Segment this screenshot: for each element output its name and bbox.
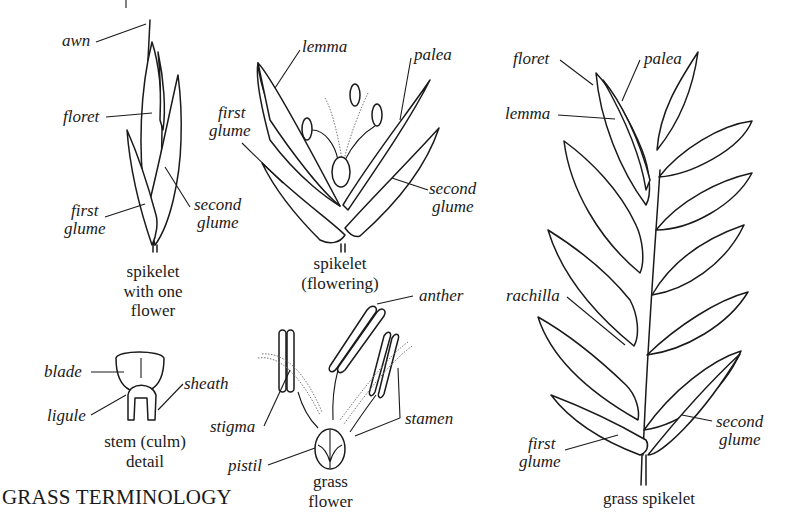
caption-line: stem (culm) [95, 432, 195, 452]
label-first-glume: first glume [64, 202, 106, 238]
label-line2: glume [519, 453, 561, 471]
caption-line: flower [293, 492, 368, 512]
caption-line: spikelet [290, 254, 390, 274]
label-sheath: sheath [184, 375, 228, 392]
label-ligule: ligule [47, 407, 86, 424]
spikelet-one-flower-drawing [96, 20, 190, 252]
grass-flower-drawing [258, 296, 413, 469]
label-first-glume-flowering: first glume [209, 104, 251, 140]
label-second-glume: second glume [194, 196, 241, 232]
label-second-glume-line1: second [194, 196, 241, 214]
caption-grass-spikelet: grass spikelet [594, 489, 704, 509]
label-line1: second [716, 413, 763, 431]
caption-line: flower [113, 301, 193, 321]
caption-grass-flower: grass flower [293, 472, 368, 511]
label-palea-spikelet: palea [644, 50, 682, 67]
label-line2: glume [429, 198, 476, 216]
caption-stem-detail: stem (culm) detail [95, 432, 195, 471]
label-lemma-spikelet: lemma [505, 105, 550, 122]
label-second-glume-line2: glume [194, 214, 241, 232]
label-first-glume-line2: glume [64, 220, 106, 238]
label-blade: blade [44, 363, 82, 380]
caption-line: spikelet [113, 262, 193, 282]
label-lemma: lemma [302, 38, 347, 55]
label-line2: glume [716, 431, 763, 449]
label-line2: glume [209, 122, 251, 140]
stem-detail-drawing [91, 352, 183, 420]
label-floret: floret [63, 108, 99, 125]
label-second-glume-spikelet: second glume [716, 413, 763, 449]
label-line1: first [209, 104, 251, 122]
label-awn: awn [62, 32, 90, 49]
label-first-glume-spikelet: first glume [519, 435, 561, 471]
caption-spikelet-one-flower: spikelet with one flower [113, 262, 193, 321]
label-floret-spikelet: floret [513, 50, 549, 67]
spikelet-flowering-drawing [242, 50, 439, 252]
label-pistil: pistil [228, 457, 262, 474]
caption-line: grass [293, 472, 368, 492]
label-second-glume-flowering: second glume [429, 180, 476, 216]
diagram-title: GRASS TERMINOLOGY [2, 485, 232, 510]
label-first-glume-line1: first [64, 202, 106, 220]
label-stamen: stamen [405, 410, 453, 427]
caption-line: grass spikelet [594, 489, 704, 509]
label-anther: anther [419, 287, 463, 304]
label-stigma: stigma [210, 418, 255, 435]
label-line1: second [429, 180, 476, 198]
caption-line: with one [113, 282, 193, 302]
label-rachilla: rachilla [506, 287, 560, 304]
label-line1: first [519, 435, 561, 453]
caption-line: detail [95, 452, 195, 472]
label-palea: palea [414, 46, 452, 63]
caption-line: (flowering) [290, 274, 390, 294]
grass-terminology-diagram: awn floret first glume second glume spik… [0, 0, 795, 527]
caption-spikelet-flowering: spikelet (flowering) [290, 254, 390, 293]
